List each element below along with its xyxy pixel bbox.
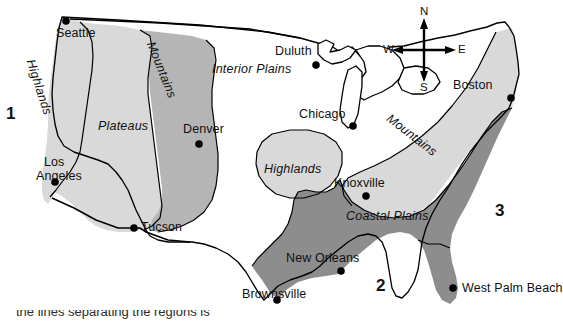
- city-dot-los-angeles: [51, 178, 59, 186]
- city-dot-chicago: [349, 122, 357, 130]
- cropped-caption-row: the lines separating the regions is: [0, 310, 549, 322]
- city-dot-boston: [507, 94, 515, 102]
- compass-arrowhead-north: [420, 18, 428, 29]
- city-dot-west-palm-beach: [449, 284, 457, 292]
- city-dot-new-orleans: [337, 267, 345, 275]
- city-dot-denver: [195, 140, 203, 148]
- cropped-caption-text: the lines separating the regions is: [16, 310, 210, 319]
- city-dot-seattle: [62, 17, 70, 25]
- city-dot-knoxville: [362, 192, 370, 200]
- city-dot-tucson: [130, 224, 138, 232]
- city-dot-duluth: [312, 61, 320, 69]
- city-dot-brownsville: [273, 296, 281, 304]
